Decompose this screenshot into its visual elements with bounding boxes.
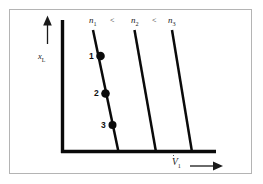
- data-point-2: [101, 89, 110, 98]
- curve-n3: [172, 30, 192, 152]
- x-axis-arrow-icon: [190, 161, 223, 170]
- y-axis-arrow-icon: [43, 16, 52, 45]
- x-axis-label: V1: [172, 158, 181, 169]
- data-point-label-2: 2: [94, 89, 99, 98]
- data-point-3: [109, 121, 117, 129]
- data-point-label-1: 1: [89, 52, 94, 61]
- figure-root: n1 < n2 < n3 1 2 3 xL V1: [0, 0, 263, 184]
- legend-relation-2: <: [152, 17, 157, 25]
- legend-label-n2: n2: [131, 16, 139, 27]
- v-dot-symbol: V: [172, 158, 178, 168]
- data-point-label-3: 3: [101, 121, 106, 130]
- legend-label-n1: n1: [89, 16, 97, 27]
- curve-n2: [135, 30, 157, 152]
- legend-relation-1: <: [110, 17, 115, 25]
- data-point-1: [96, 52, 105, 61]
- legend-label-n3: n3: [168, 16, 176, 27]
- plot-canvas: [0, 0, 263, 184]
- y-axis-label: xL: [38, 52, 45, 63]
